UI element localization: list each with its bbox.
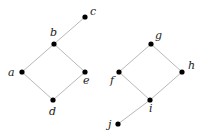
edge-g-h	[151, 44, 182, 72]
node-label-a: a	[8, 66, 15, 79]
node-label-h: h	[188, 59, 195, 72]
edge-f-g	[119, 44, 151, 72]
node-label-j: j	[105, 118, 112, 131]
edge-h-i	[150, 72, 182, 100]
node-c	[82, 14, 87, 19]
node-a	[19, 69, 24, 74]
edge-b-c	[54, 17, 85, 44]
node-label-b: b	[50, 26, 57, 39]
node-label-i: i	[149, 102, 153, 115]
node-label-c: c	[90, 5, 96, 18]
edge-d-e	[53, 72, 85, 100]
node-g	[148, 41, 153, 46]
edge-i-j	[118, 100, 150, 124]
node-f	[116, 69, 121, 74]
labels-layer: abcdefghij	[8, 5, 195, 131]
edge-e-b	[54, 44, 85, 72]
node-label-f: f	[109, 74, 116, 87]
node-label-d: d	[49, 105, 56, 118]
node-h	[179, 69, 184, 74]
node-b	[51, 41, 56, 46]
node-j	[115, 121, 120, 126]
node-label-g: g	[155, 29, 162, 42]
hasse-diagram-canvas: abcdefghij	[0, 0, 203, 137]
edge-i-f	[119, 72, 150, 100]
edge-a-b	[22, 44, 54, 72]
node-d	[50, 97, 55, 102]
edge-a-d	[22, 72, 53, 100]
node-label-e: e	[83, 74, 90, 87]
